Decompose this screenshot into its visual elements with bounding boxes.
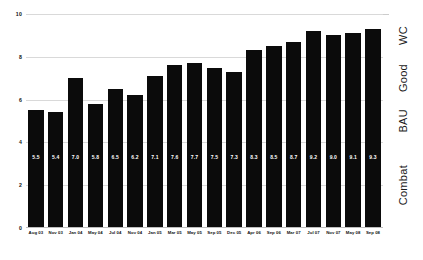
bar-value-label: 9.0 bbox=[326, 154, 341, 160]
bar-value-label: 7.1 bbox=[147, 154, 162, 160]
bar[interactable]: 5.5 bbox=[28, 110, 43, 228]
bar-slot: 9.2 bbox=[304, 14, 324, 228]
bar[interactable]: 7.3 bbox=[226, 72, 241, 228]
bar-slot: 9.1 bbox=[343, 14, 363, 228]
bar-slot: 8.7 bbox=[284, 14, 304, 228]
bar-slot: 7.6 bbox=[165, 14, 185, 228]
bar[interactable]: 9.3 bbox=[365, 29, 380, 228]
bar[interactable]: 9.1 bbox=[345, 33, 360, 228]
band-good: Good bbox=[383, 57, 423, 100]
band-bau: BAU bbox=[383, 100, 423, 143]
bar-slot: 9.0 bbox=[323, 14, 343, 228]
x-axis-tick: Aug 03 bbox=[26, 230, 46, 246]
bar[interactable]: 6.5 bbox=[108, 89, 123, 228]
bar-value-label: 8.3 bbox=[246, 154, 261, 160]
bar-value-label: 7.0 bbox=[68, 154, 83, 160]
bar-value-label: 8.7 bbox=[286, 154, 301, 160]
bar-value-label: 7.3 bbox=[226, 154, 241, 160]
bar-slot: 5.4 bbox=[46, 14, 66, 228]
bar-slot: 7.0 bbox=[66, 14, 86, 228]
x-axis-tick: Jul 07 bbox=[304, 230, 324, 246]
y-axis-tick: 4 bbox=[19, 139, 22, 145]
bar-slot: 8.5 bbox=[264, 14, 284, 228]
bar[interactable]: 5.8 bbox=[88, 104, 103, 228]
bar-slot: 8.3 bbox=[244, 14, 264, 228]
bar[interactable]: 7.1 bbox=[147, 76, 162, 228]
bar-value-label: 5.4 bbox=[48, 154, 63, 160]
bar[interactable]: 8.5 bbox=[266, 46, 281, 228]
x-axis-tick: May 08 bbox=[343, 230, 363, 246]
x-axis-tick: Nov 03 bbox=[46, 230, 66, 246]
bar-value-label: 7.6 bbox=[167, 154, 182, 160]
x-axis-tick: Jul 04 bbox=[105, 230, 125, 246]
x-axis-tick: Mar 05 bbox=[165, 230, 185, 246]
x-axis-tick: Mar 07 bbox=[284, 230, 304, 246]
bar-value-label: 9.2 bbox=[306, 154, 321, 160]
bar-slot: 7.7 bbox=[185, 14, 205, 228]
bar[interactable]: 8.7 bbox=[286, 42, 301, 228]
bar-series: 5.55.47.05.86.56.27.17.67.77.57.38.38.58… bbox=[26, 14, 383, 228]
x-axis-line bbox=[26, 227, 383, 228]
band-label: BAU bbox=[397, 109, 409, 133]
x-axis-tick: Jan 04 bbox=[66, 230, 86, 246]
bar-slot: 7.5 bbox=[204, 14, 224, 228]
bar-slot: 6.5 bbox=[105, 14, 125, 228]
x-axis-labels: Aug 03Nov 03Jan 04May 04Jul 04Nov 04Jan … bbox=[26, 230, 383, 246]
x-axis-tick: Sep 05 bbox=[204, 230, 224, 246]
band-combat: Combat bbox=[383, 142, 423, 228]
bar[interactable]: 7.7 bbox=[187, 63, 202, 228]
bar-chart: 0246810 5.55.47.05.86.56.27.17.67.77.57.… bbox=[0, 0, 423, 260]
bar-value-label: 6.2 bbox=[127, 154, 142, 160]
y-axis-tick: 6 bbox=[19, 97, 22, 103]
bar[interactable]: 7.0 bbox=[68, 78, 83, 228]
right-band-labels: CombatBAUGoodWC bbox=[383, 14, 423, 228]
x-axis-tick: Sep 06 bbox=[264, 230, 284, 246]
bar-slot: 5.5 bbox=[26, 14, 46, 228]
bar-value-label: 7.5 bbox=[207, 154, 222, 160]
bar-slot: 9.3 bbox=[363, 14, 383, 228]
band-label: WC bbox=[397, 26, 409, 45]
bar-value-label: 8.5 bbox=[266, 154, 281, 160]
y-axis-tick: 10 bbox=[16, 11, 22, 17]
x-axis-tick: Apr 06 bbox=[244, 230, 264, 246]
y-axis-tick: 0 bbox=[19, 225, 22, 231]
bar-value-label: 9.3 bbox=[365, 154, 380, 160]
y-axis: 0246810 bbox=[0, 0, 26, 260]
band-wc: WC bbox=[383, 14, 423, 57]
bar[interactable]: 9.2 bbox=[306, 31, 321, 228]
bar-slot: 7.1 bbox=[145, 14, 165, 228]
x-axis-tick: Nov 04 bbox=[125, 230, 145, 246]
bar-value-label: 5.8 bbox=[88, 154, 103, 160]
bar[interactable]: 7.6 bbox=[167, 65, 182, 228]
bar-slot: 7.3 bbox=[224, 14, 244, 228]
bar-value-label: 5.5 bbox=[28, 154, 43, 160]
x-axis-tick: Nov 07 bbox=[323, 230, 343, 246]
bar-value-label: 9.1 bbox=[345, 154, 360, 160]
bar-slot: 5.8 bbox=[85, 14, 105, 228]
x-axis-tick: May 05 bbox=[185, 230, 205, 246]
y-axis-tick: 8 bbox=[19, 54, 22, 60]
x-axis-tick: Jan 05 bbox=[145, 230, 165, 246]
x-axis-tick: May 04 bbox=[85, 230, 105, 246]
bar[interactable]: 6.2 bbox=[127, 95, 142, 228]
plot-area: 5.55.47.05.86.56.27.17.67.77.57.38.38.58… bbox=[26, 14, 383, 228]
bar-slot: 6.2 bbox=[125, 14, 145, 228]
y-axis-tick: 2 bbox=[19, 182, 22, 188]
bar[interactable]: 5.4 bbox=[48, 112, 63, 228]
x-axis-tick: Sep 08 bbox=[363, 230, 383, 246]
bar-value-label: 7.7 bbox=[187, 154, 202, 160]
bar[interactable]: 8.3 bbox=[246, 50, 261, 228]
x-axis-tick: Dec 05 bbox=[224, 230, 244, 246]
bar[interactable]: 7.5 bbox=[207, 68, 222, 229]
band-label: Good bbox=[397, 64, 409, 92]
band-label: Combat bbox=[397, 165, 409, 205]
bar-value-label: 6.5 bbox=[108, 154, 123, 160]
bar[interactable]: 9.0 bbox=[326, 35, 341, 228]
